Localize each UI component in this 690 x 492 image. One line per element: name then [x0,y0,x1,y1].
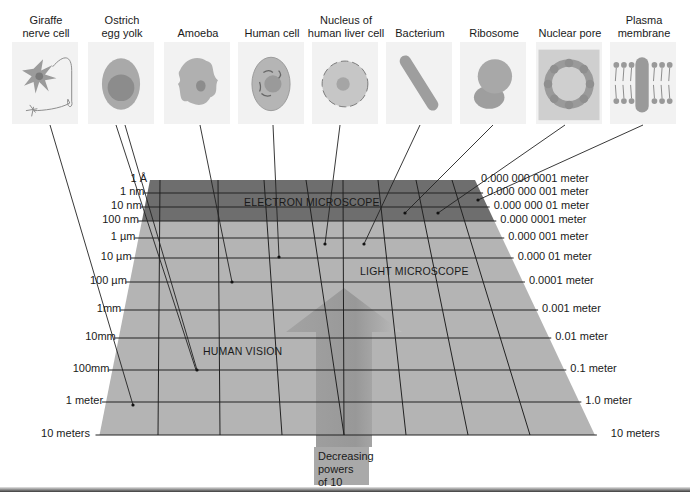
region-electron-microscope: ELECTRON MICROSCOPE [244,196,380,208]
bacterium-icon [386,42,452,124]
pointer-dot [362,242,365,245]
specimen-label: Ribosome [452,27,536,40]
specimen-image [536,42,602,124]
ostrich-egg-yolk-icon [88,42,154,124]
specimen-image [460,42,526,124]
specimen-image [12,42,78,124]
specimen-label: Nucleus of human liver cell [304,14,388,40]
region-human-vision: HUMAN VISION [203,345,282,357]
left-scale-label: 100 µm [90,274,127,286]
right-scale-label: 0.000 000 0001 meter [481,172,589,184]
human-cell-icon [238,42,304,124]
left-scale-label: 100 nm [102,213,139,225]
left-scale-label: 10mm [85,330,116,342]
left-scale-label: 10 nm [111,199,142,211]
right-scale-label: 1.0 meter [585,394,631,406]
specimen-label: Plasma membrane [602,14,686,40]
right-scale-label: 0.0001 meter [529,274,594,286]
left-scale-label: 10 µm [101,250,132,262]
arrow-caption: Decreasing powers of 10 [314,447,369,485]
right-scale-label: 0.000 0001 meter [500,213,586,225]
right-scale-label: 0.000 01 meter [518,250,592,262]
specimen-image [88,42,154,124]
nuclear-pore-icon [536,42,602,124]
right-scale-label: 10 meters [611,427,660,439]
specimen-label: Giraffe nerve cell [4,14,88,40]
region-light-microscope: LIGHT MICROSCOPE [360,265,469,277]
pointer-dot [230,280,233,283]
specimen-label: Nuclear pore [528,27,612,40]
specimen-image [312,42,378,124]
pointer-dot [403,211,406,214]
arrow-caption-text: Decreasing powers of 10 [318,450,374,488]
right-scale-label: 0.000 001 meter [508,230,588,242]
specimen-label: Bacterium [378,27,462,40]
pointer-dot [277,255,280,258]
amoeba-icon [164,42,230,124]
giraffe-nerve-cell-icon [12,42,78,124]
left-scale-label: 1mm [97,302,121,314]
pointer-dot [436,211,439,214]
right-scale-label: 0.01 meter [555,330,608,342]
specimen-label: Ostrich egg yolk [80,14,164,40]
right-scale-label: 0.1 meter [570,362,616,374]
specimen-image [386,42,452,124]
pointer-dot [323,242,326,245]
left-scale-label: 1 µm [111,230,136,242]
left-scale-label: 10 meters [41,427,90,439]
left-scale-label: 1 meter [66,394,103,406]
left-scale-label: 1 Å [130,172,147,184]
size-scale-diagram: Giraffe nerve cellOstrich egg yolkAmoeba… [0,0,690,492]
specimen-image [610,42,676,124]
liver-nucleus-icon [312,42,378,124]
left-scale-label: 1 nm [120,185,144,197]
ribosome-icon [460,42,526,124]
specimen-label: Amoeba [156,27,240,40]
plasma-membrane-icon [610,42,676,124]
right-scale-label: 0.000 000 001 meter [487,185,589,197]
specimen-image [238,42,304,124]
pointer-dot [476,198,479,201]
left-scale-label: 100mm [73,362,110,374]
specimen-image [164,42,230,124]
right-scale-label: 0.001 meter [542,302,601,314]
bottom-border [0,487,690,492]
right-scale-label: 0.000 000 01 meter [494,199,589,211]
specimen-label: Human cell [230,27,314,40]
pointer-dot [131,403,134,406]
